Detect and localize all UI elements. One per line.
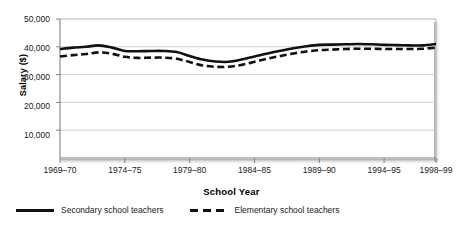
legend-line-solid-icon <box>16 209 54 212</box>
x-tick-label: 1994–95 <box>368 166 401 175</box>
axis-lines <box>60 19 436 158</box>
x-tick-label: 1989–90 <box>303 166 336 175</box>
x-tick-label: 1969–70 <box>43 166 76 175</box>
gridlines <box>60 19 436 130</box>
chart-legend: Secondary school teachers Elementary sch… <box>16 205 339 215</box>
x-tick-label: 1979–80 <box>173 166 206 175</box>
x-tick-label: 1984–85 <box>238 166 271 175</box>
legend-line-dashed-icon <box>190 209 228 212</box>
data-series-group <box>60 44 436 67</box>
x-tick-label: 1974–75 <box>108 166 141 175</box>
x-axis-title: School Year <box>0 186 463 197</box>
x-tick-label: 1998–99 <box>419 166 452 175</box>
legend-item-secondary: Secondary school teachers <box>16 205 164 215</box>
legend-label: Secondary school teachers <box>61 205 164 215</box>
legend-label: Elementary school teachers <box>235 205 340 215</box>
chart-container: Salary ($) 50,000 40,000 30,000 20,000 1… <box>0 0 463 229</box>
legend-item-elementary: Elementary school teachers <box>190 205 340 215</box>
y-axis-ticks <box>56 19 60 130</box>
